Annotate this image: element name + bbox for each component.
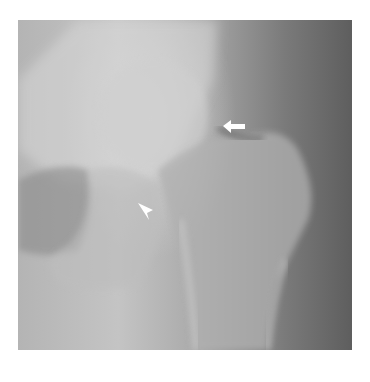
hip-xray-image [18,20,352,350]
xray-shapes [18,20,352,350]
